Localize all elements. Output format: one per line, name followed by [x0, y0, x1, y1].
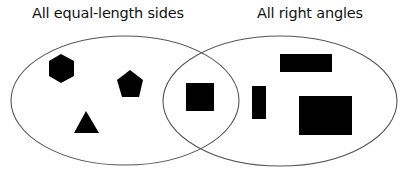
triangle-shape — [74, 111, 99, 133]
pentagon-shape — [117, 70, 143, 97]
thin-rectangle-shape — [252, 86, 266, 119]
square-shape — [186, 83, 214, 111]
venn-diagram — [0, 0, 406, 173]
hexagon-shape — [49, 54, 74, 83]
large-rectangle-shape — [299, 96, 352, 135]
wide-rectangle-shape — [280, 54, 332, 72]
